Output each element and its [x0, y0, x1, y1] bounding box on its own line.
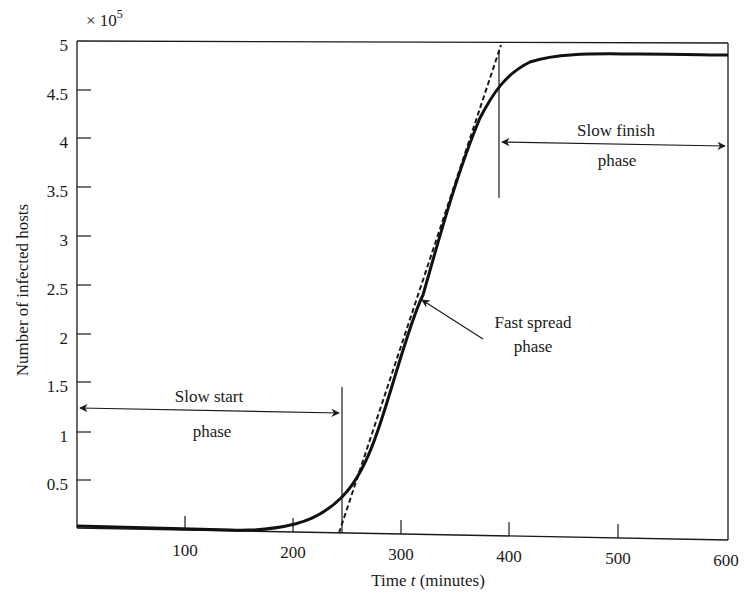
y-axis-title: Number of infected hosts [13, 204, 32, 376]
x-axis-tick-labels: 100 200 300 400 500 600 [172, 541, 739, 570]
fast-spread-annotation: Fast spread phase [422, 300, 572, 356]
x-axis-title: Time t (minutes) [371, 571, 485, 590]
svg-text:200: 200 [280, 543, 306, 562]
svg-text:5: 5 [60, 36, 69, 55]
svg-text:3.5: 3.5 [47, 182, 68, 201]
svg-text:1: 1 [60, 427, 69, 446]
svg-text:300: 300 [388, 545, 414, 564]
svg-text:500: 500 [605, 549, 631, 568]
y-axis-ticks [77, 90, 91, 480]
svg-text:4.5: 4.5 [47, 85, 68, 104]
svg-text:3: 3 [60, 231, 69, 250]
svg-text:phase: phase [193, 422, 232, 441]
svg-text:phase: phase [514, 337, 553, 356]
svg-text:phase: phase [598, 151, 637, 170]
slow-finish-annotation: Slow finish phase [502, 121, 725, 170]
y-multiplier-label: × 105 [86, 7, 123, 30]
svg-text:Slow start: Slow start [175, 387, 244, 406]
fast-spread-tangent-line [339, 45, 501, 533]
plot-frame [77, 41, 728, 540]
y-axis-tick-labels: 0.5 1 1.5 2 2.5 3 3.5 4 4.5 5 [47, 36, 69, 494]
svg-text:100: 100 [172, 541, 198, 560]
x-axis-ticks [185, 516, 618, 538]
svg-text:0.5: 0.5 [47, 475, 68, 494]
slow-start-annotation: Slow start phase [80, 387, 339, 441]
svg-text:Fast spread: Fast spread [495, 313, 572, 332]
svg-text:600: 600 [713, 551, 739, 570]
svg-text:2: 2 [60, 329, 69, 348]
svg-text:4: 4 [60, 133, 69, 152]
chart-canvas: 0.5 1 1.5 2 2.5 3 3.5 4 4.5 5 × 105 100 … [0, 0, 751, 599]
svg-text:400: 400 [496, 547, 522, 566]
svg-text:2.5: 2.5 [47, 280, 68, 299]
svg-text:1.5: 1.5 [47, 377, 68, 396]
svg-text:Slow finish: Slow finish [577, 121, 655, 140]
